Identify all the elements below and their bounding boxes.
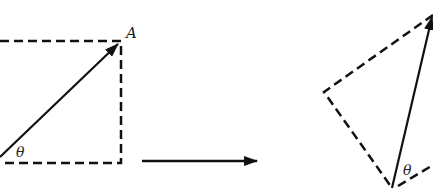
rotated-angle-label-theta: θ <box>403 162 412 178</box>
right-figure: θ <box>324 15 433 188</box>
diagram-canvas: A θ θ <box>0 0 433 190</box>
angle-label-theta: θ <box>16 144 25 160</box>
vector-arrow <box>0 44 118 157</box>
point-label-a: A <box>124 24 137 42</box>
dashed-rotated-rectangle <box>324 15 433 188</box>
rotated-vector-arrow <box>392 17 432 188</box>
left-figure: A θ <box>0 24 137 163</box>
